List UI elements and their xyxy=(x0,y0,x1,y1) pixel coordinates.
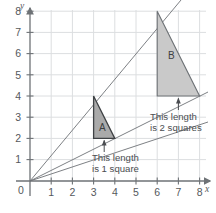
x-tick-label-3: 3 xyxy=(91,186,97,198)
y-tick-label-3: 3 xyxy=(15,111,21,123)
triangle-a-label: A xyxy=(99,122,106,133)
x-tick-label-5: 5 xyxy=(133,186,139,198)
coordinate-plane-svg: B A xyxy=(0,0,216,213)
y-axis-name: y xyxy=(19,1,25,11)
annotation-a-line1: This length xyxy=(92,152,139,163)
x-axis-name: x xyxy=(204,184,210,194)
x-tick-label-6: 6 xyxy=(154,186,160,198)
y-axis-tick-labels: 1 2 3 4 5 6 7 8 xyxy=(15,5,21,165)
x-tick-label-8: 8 xyxy=(197,186,203,198)
origin-label: 0 xyxy=(18,184,24,196)
coordinate-figure: B A xyxy=(0,0,216,213)
y-tick-label-5: 5 xyxy=(15,69,21,81)
y-tick-label-7: 7 xyxy=(15,26,21,38)
y-tick-label-2: 2 xyxy=(15,132,21,144)
annotation-a: This length is 1 square xyxy=(92,141,139,175)
x-tick-label-4: 4 xyxy=(112,186,118,198)
annotation-b-line2: is 2 squares xyxy=(150,122,202,133)
x-tick-label-2: 2 xyxy=(69,186,75,198)
annotation-b-line1: This length xyxy=(150,111,197,122)
x-axis-tick-labels: 1 2 3 4 5 6 7 8 xyxy=(48,186,202,198)
y-tick-label-6: 6 xyxy=(15,47,21,59)
annotation-a-line2: is 1 square xyxy=(92,163,139,174)
triangle-b-label: B xyxy=(168,50,175,61)
y-tick-label-4: 4 xyxy=(15,90,21,102)
x-tick-label-7: 7 xyxy=(175,186,181,198)
annotation-b: This length is 2 squares xyxy=(150,99,202,134)
x-tick-label-1: 1 xyxy=(48,186,54,198)
y-tick-label-1: 1 xyxy=(15,153,21,165)
